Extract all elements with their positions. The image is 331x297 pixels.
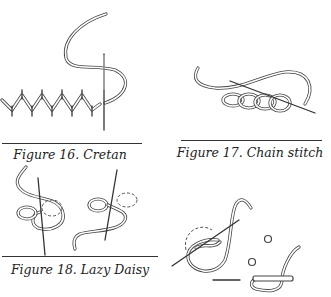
figure-17-caption: Figure 17. Chain stitch: [177, 145, 324, 160]
cretan-stitch-illustration: [2, 14, 125, 130]
figure-17-rule: [181, 140, 322, 141]
chain-stitch-illustration: [195, 68, 315, 113]
lazy-daisy-illustration: [17, 167, 137, 255]
figure-18-caption: Figure 18. Lazy Daisy: [11, 262, 149, 277]
french-knot-illustration: [172, 200, 299, 291]
figure-16-caption: Figure 16. Cretan: [13, 147, 126, 162]
figure-16-rule: [2, 143, 142, 144]
figure-18-rule: [2, 256, 158, 257]
